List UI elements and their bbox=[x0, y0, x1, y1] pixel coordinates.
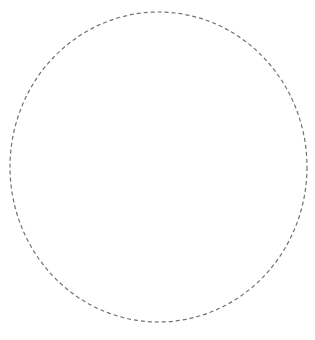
dashed-circle-outline bbox=[10, 12, 307, 322]
canvas bbox=[0, 0, 315, 340]
drawing-surface bbox=[0, 0, 315, 340]
